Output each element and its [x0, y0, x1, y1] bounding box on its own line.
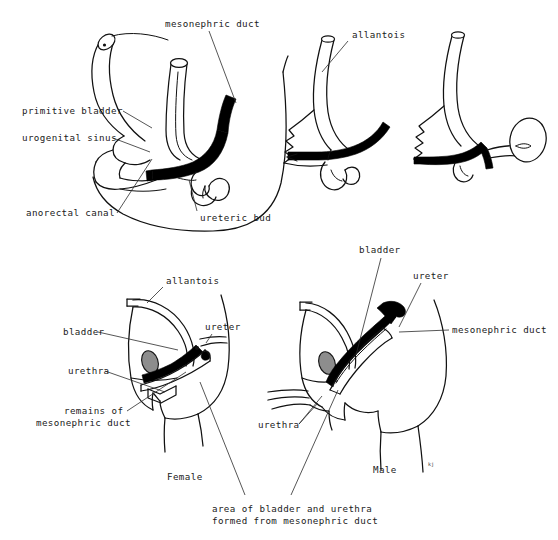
- label-remains-line2: mesonephric duct: [36, 417, 131, 428]
- leader-ureteric-bud: [189, 180, 197, 211]
- panel-top-left: mesonephric duct primitive bladder uroge…: [22, 18, 288, 231]
- label-allantois-female: allantois: [166, 275, 219, 286]
- panel-top-middle: allantois: [284, 29, 405, 190]
- label-ureter-female: ureter: [205, 321, 241, 332]
- leader-allantois-middle: [322, 41, 348, 72]
- leader-allantois-female: [147, 287, 163, 303]
- leader-ureter-female: [206, 334, 212, 343]
- label-remains-line1: remains of: [64, 405, 123, 416]
- leader-caption-left: [200, 382, 245, 495]
- panel-female: Female allantois bladder ureter urethra …: [36, 275, 241, 482]
- label-urethra-male: urethra: [258, 419, 300, 430]
- label-mesonephric-duct: mesonephric duct: [165, 18, 260, 29]
- caption-line2: formed from mesonephric duct: [212, 515, 378, 526]
- label-primitive-bladder: primitive bladder: [22, 105, 123, 116]
- label-allantois-middle: allantois: [352, 29, 405, 40]
- leader-mesonephric-duct: [209, 31, 236, 103]
- leader-mesonephric-male: [399, 330, 449, 332]
- leader-primitive-bladder: [123, 111, 152, 128]
- caption-male: Male: [373, 464, 397, 475]
- artist-signature: kj: [428, 461, 434, 468]
- panel-male: Male kj bladder ureter mesonephric duct …: [258, 244, 547, 475]
- caption-line1: area of bladder and urethra: [212, 503, 372, 514]
- label-bladder-female: bladder: [63, 326, 105, 337]
- leader-urethra-male-2: [299, 396, 322, 424]
- label-urogenital-sinus: urogenital sinus: [22, 132, 117, 143]
- leader-bladder-female: [98, 332, 178, 350]
- label-mesonephric-duct-male: mesonephric duct: [452, 324, 547, 335]
- caption-female: Female: [167, 471, 203, 482]
- label-ureteric-bud: ureteric bud: [200, 212, 271, 223]
- label-urethra-female: urethra: [68, 365, 110, 376]
- label-anorectal-canal: anorectal canal: [26, 207, 115, 218]
- label-bladder-male: bladder: [359, 244, 401, 255]
- bottom-caption-group: area of bladder and urethra formed from …: [200, 382, 378, 526]
- label-ureter-male: ureter: [413, 270, 449, 281]
- anatomical-figure: mesonephric duct primitive bladder uroge…: [0, 0, 558, 540]
- panel-top-right: [414, 32, 550, 182]
